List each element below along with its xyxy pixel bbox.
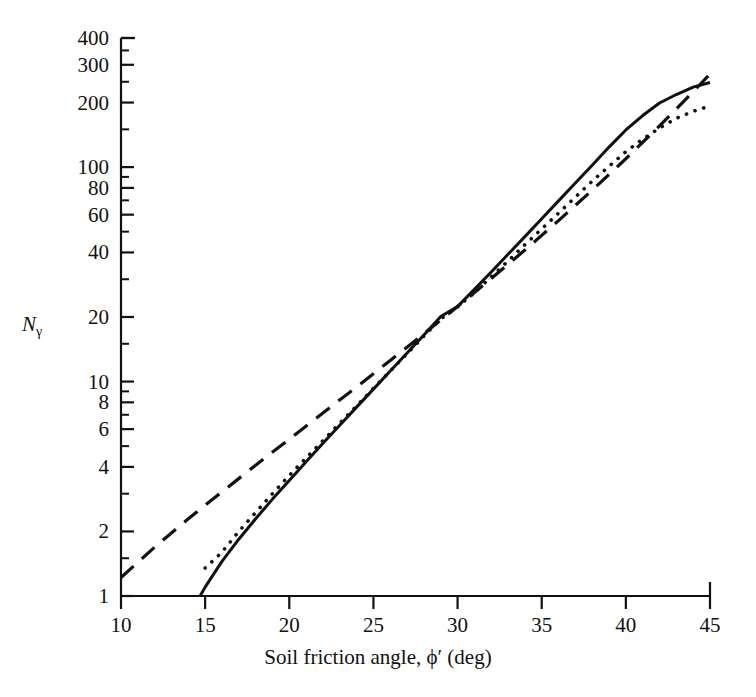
y-tick-label: 40 [88,240,109,264]
y-axis-title: Nγ [22,312,82,340]
y-tick-label: 2 [99,519,110,543]
x-tick-label: 25 [363,613,384,637]
series-layer [121,74,710,596]
axes-layer [121,38,710,609]
y-tick-label: 4 [99,455,110,479]
y-tick-label: 100 [78,155,110,179]
dashed-curve [121,74,710,577]
x-tick-label: 15 [195,613,216,637]
solid-curve [200,83,710,596]
y-tick-label: 300 [78,53,110,77]
y-tick-label: 6 [99,417,110,441]
y-tick-label: 8 [99,390,110,414]
y-tick-label: 200 [78,91,110,115]
y-tick-label: 10 [88,370,109,394]
x-tick-label: 40 [615,613,636,637]
x-tick-label: 45 [700,613,721,637]
y-tick-label: 80 [88,176,109,200]
labels-layer: 1246810204060801002003004001015202530354… [78,26,721,637]
x-axis-title-text: Soil friction angle, ϕ′ (deg) [264,645,491,669]
x-tick-label: 30 [447,613,468,637]
x-tick-label: 35 [531,613,552,637]
chart-canvas: 1246810204060801002003004001015202530354… [0,0,756,697]
y-tick-label: 1 [99,584,110,608]
x-axis-title: Soil friction angle, ϕ′ (deg) [0,645,756,670]
x-tick-label: 20 [279,613,300,637]
bearing-capacity-factor-chart: 1246810204060801002003004001015202530354… [0,0,756,697]
y-tick-label: 400 [78,26,110,50]
y-tick-label: 60 [88,203,109,227]
x-tick-label: 10 [111,613,132,637]
y-axis-title-subscript: γ [36,324,42,339]
y-axis-title-base: N [22,312,36,336]
y-tick-label: 20 [88,305,109,329]
dotted-curve [205,106,710,568]
